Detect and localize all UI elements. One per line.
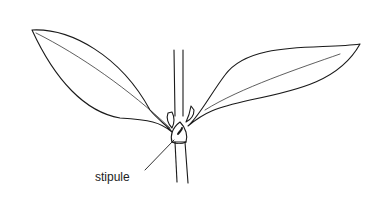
left-leaf: [32, 30, 172, 132]
stipule-label: stipule: [95, 170, 130, 184]
plant-diagram: [0, 0, 383, 209]
stem: [174, 50, 188, 183]
right-leaf: [188, 44, 360, 126]
stipule-leader-line: [145, 140, 174, 170]
